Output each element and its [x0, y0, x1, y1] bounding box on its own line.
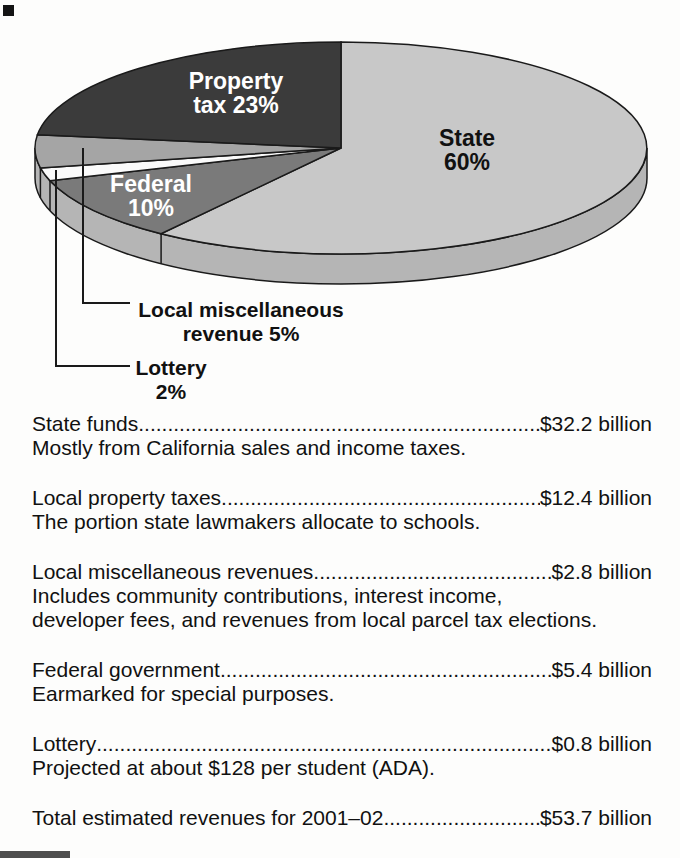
- funding-list: State funds.............................…: [32, 412, 652, 830]
- funding-total-title: Total estimated revenues for 2001–02: [32, 806, 383, 830]
- callout-label-lottery: 2%: [156, 380, 187, 403]
- funding-item-title: Local miscellaneous revenues: [32, 560, 313, 584]
- funding-item-title: Federal government: [32, 658, 220, 682]
- funding-row: Total estimated revenues for 2001–02....…: [32, 806, 652, 830]
- funding-item-amount: $0.8 billion: [552, 732, 652, 756]
- scanned-figure-page: State60%Federal10%Propertytax 23%Lottery…: [0, 0, 680, 858]
- funding-item-desc: developer fees, and revenues from local …: [32, 608, 652, 632]
- dot-leader: ........................................…: [220, 658, 552, 682]
- funding-item: State funds.............................…: [32, 412, 652, 460]
- funding-row: Federal government......................…: [32, 658, 652, 682]
- funding-item-title: Lottery: [32, 732, 96, 756]
- funding-item-amount: $12.4 billion: [540, 486, 652, 510]
- pie-slice-label-state: State: [439, 125, 495, 151]
- pie-chart: State60%Federal10%Propertytax 23%Lottery…: [0, 0, 680, 410]
- pie-slice-label-federal: 10%: [128, 195, 174, 221]
- funding-item-desc: The portion state lawmakers allocate to …: [32, 510, 652, 534]
- funding-total-amount: $53.7 billion: [540, 806, 652, 830]
- funding-total: Total estimated revenues for 2001–02....…: [32, 806, 652, 830]
- callout-label-local-miscellaneous: revenue 5%: [183, 322, 300, 345]
- dot-leader: ........................................…: [383, 806, 540, 830]
- pie-slice-label-property-tax: tax 23%: [193, 92, 279, 118]
- funding-item-desc: Projected at about $128 per student (ADA…: [32, 756, 652, 780]
- callout-label-local-miscellaneous: Local miscellaneous: [138, 298, 343, 321]
- funding-item: Lottery.................................…: [32, 732, 652, 780]
- funding-row: Lottery.................................…: [32, 732, 652, 756]
- funding-item-desc: Mostly from California sales and income …: [32, 436, 652, 460]
- funding-item: Federal government......................…: [32, 658, 652, 706]
- pie-slice-label-state: 60%: [444, 149, 490, 175]
- pie-slice-property-tax: [37, 42, 341, 148]
- funding-item-desc: Includes community contributions, intere…: [32, 584, 652, 608]
- funding-item-desc: Earmarked for special purposes.: [32, 682, 652, 706]
- funding-row: Local property taxes....................…: [32, 486, 652, 510]
- funding-item-amount: $2.8 billion: [552, 560, 652, 584]
- pie-slice-label-property-tax: Property: [189, 68, 284, 94]
- funding-item-title: Local property taxes: [32, 486, 221, 510]
- page-edge-bar: [0, 851, 70, 858]
- funding-item: Local property taxes....................…: [32, 486, 652, 534]
- dot-leader: ........................................…: [221, 486, 540, 510]
- pie-slice-label-federal: Federal: [110, 171, 192, 197]
- funding-item-amount: $5.4 billion: [552, 658, 652, 682]
- dot-leader: ........................................…: [313, 560, 551, 584]
- funding-item-amount: $32.2 billion: [540, 412, 652, 436]
- funding-item: Local miscellaneous revenues............…: [32, 560, 652, 632]
- callout-label-lottery: Lottery: [135, 356, 206, 379]
- dot-leader: ........................................…: [96, 732, 551, 756]
- funding-item-title: State funds: [32, 412, 138, 436]
- funding-row: Local miscellaneous revenues............…: [32, 560, 652, 584]
- funding-row: State funds.............................…: [32, 412, 652, 436]
- dot-leader: ........................................…: [138, 412, 540, 436]
